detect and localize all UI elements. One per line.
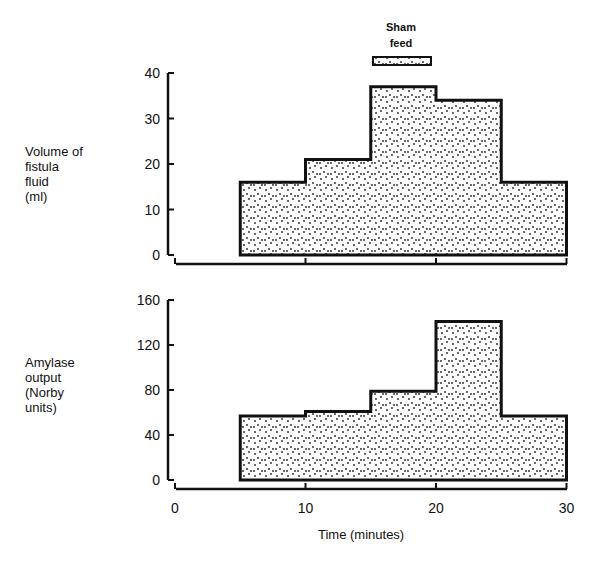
amylase-step-area <box>240 321 566 480</box>
y-tick-label: 120 <box>137 337 161 353</box>
y-tick-label: 40 <box>144 65 160 81</box>
x-tick-label: 10 <box>298 500 314 516</box>
y-tick-label: 20 <box>144 156 160 172</box>
y-tick-label: 30 <box>144 111 160 127</box>
volume-step-area <box>240 87 566 255</box>
sham-feed-bar <box>373 57 431 65</box>
x-tick-label: 20 <box>428 500 444 516</box>
y-tick-label: 0 <box>152 247 160 263</box>
y-tick-label: 0 <box>152 472 160 488</box>
y-tick-label: 10 <box>144 202 160 218</box>
chart-canvas: 403020100160120804000102030 <box>0 0 600 565</box>
x-tick-label: 30 <box>559 500 575 516</box>
y-tick-label: 160 <box>137 292 161 308</box>
y-tick-label: 40 <box>144 427 160 443</box>
x-tick-label: 0 <box>171 500 179 516</box>
y-tick-label: 80 <box>144 382 160 398</box>
